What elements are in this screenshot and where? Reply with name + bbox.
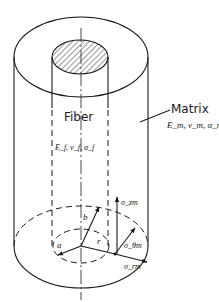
radius-a-label: a: [57, 241, 62, 250]
matrix-leader-line: [140, 110, 170, 122]
fiber-properties: E_f, ν_f, α_f: [55, 144, 94, 152]
stress-point: [114, 253, 117, 256]
fiber-top-hatched: [52, 40, 108, 74]
sigma-rm-arrow: [115, 254, 147, 262]
radius-r-label: r: [97, 237, 101, 246]
fiber-label: Fiber: [64, 111, 93, 123]
matrix-label: Matrix: [171, 103, 209, 115]
sigma-rm-label: σ_rm: [124, 263, 141, 271]
radius-r-line: [81, 246, 115, 254]
cylinder-diagram: [0, 0, 219, 302]
matrix-properties: E_m, ν_m, α_m: [167, 121, 219, 130]
sigma-theta-m-label: σ_θm: [124, 242, 142, 250]
sigma-zm-label: σ_zm: [121, 199, 138, 207]
radius-b-label: b: [83, 213, 88, 222]
